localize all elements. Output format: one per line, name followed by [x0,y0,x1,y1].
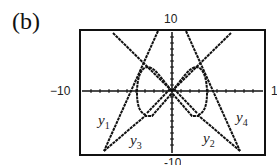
plot-area: y1 y3 y2 y4 [0,0,277,165]
line-upper-left [113,33,172,91]
label-y3: y3 [128,132,142,151]
line-upper-right [172,33,231,91]
label-y2: y2 [201,130,215,149]
label-y4: y4 [234,109,248,128]
label-y1: y1 [96,112,110,131]
